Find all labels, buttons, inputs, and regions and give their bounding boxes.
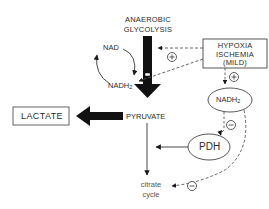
nadh2-left-text: NADH [108, 81, 129, 90]
citrate-line2: cycle [137, 191, 165, 199]
nadh2-right-text: NADH [216, 95, 237, 104]
nadh2-right-label: NADH2 [216, 96, 240, 105]
citrate-cycle-label: citrate cycle [137, 181, 165, 198]
nadh2-left-subscript: 2 [129, 84, 132, 90]
glycolysis-diagram: ANAEROBIC GLYCOLYSIS NAD NADH2 HYPOXIA I… [0, 0, 269, 209]
lactate-label: LACTATE [21, 112, 63, 121]
nadh2-right-subscript: 2 [237, 98, 240, 104]
hypoxia-line2: ISCHEMIA [205, 51, 265, 59]
minus-sign-pdh [227, 121, 236, 130]
pdh-label: PDH [199, 142, 220, 152]
plus-sign-glycolysis [168, 53, 177, 62]
citrate-line1: citrate [137, 181, 165, 189]
glycolysis-title-line2: GLYCOLYSIS [117, 26, 179, 34]
nadh2-left-label: NADH2 [108, 82, 132, 91]
glycolysis-title-line1: ANAEROBIC [117, 16, 179, 24]
glycolysis-title: ANAEROBIC GLYCOLYSIS [117, 16, 179, 33]
nad-cycle-arrows [97, 49, 135, 84]
plus-sign-nadh [230, 73, 239, 82]
minus-sign-citrate [188, 182, 197, 191]
hypoxia-box: HYPOXIA ISCHEMIA (MILD) [205, 42, 265, 67]
lactate-arrow [76, 106, 123, 126]
glycolysis-arrow [134, 36, 161, 98]
pyruvate-label: PYRUVATE [126, 113, 165, 121]
hypoxia-line3: (MILD) [205, 59, 265, 67]
hypoxia-line1: HYPOXIA [205, 42, 265, 50]
nad-label: NAD [103, 44, 119, 52]
